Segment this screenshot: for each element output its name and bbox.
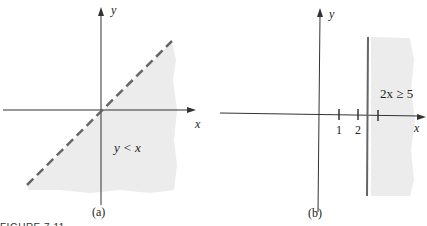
figure-caption: FIGURE 7.11 (0, 222, 65, 226)
x-arrow-a (187, 107, 196, 113)
y-axis-label-b: y (328, 7, 335, 21)
panel-a: y x y < x (a) (3, 3, 201, 219)
panel-label-a: (a) (92, 205, 105, 219)
x-axis-label-b: x (413, 121, 420, 135)
x-axis-label-a: x (194, 117, 201, 131)
x-arrow-b (417, 114, 426, 120)
y-axis-label-a: y (110, 3, 117, 17)
y-axis-b (318, 15, 320, 212)
shaded-region-a (28, 42, 177, 193)
panel-b: y x 1 2 2x ≥ 5 (b) (220, 7, 426, 220)
panel-label-b: (b) (308, 206, 322, 220)
y-arrow-b (317, 8, 323, 17)
tick-label-1: 1 (336, 123, 342, 137)
y-arrow-a (98, 7, 104, 16)
figure-canvas: y x y < x (a) y x 1 2 2x ≥ 5 (b) FIGURE … (0, 0, 427, 226)
region-label-b: 2x ≥ 5 (380, 86, 413, 101)
tick-label-2: 2 (355, 123, 361, 137)
boundary-solid-b (367, 37, 368, 196)
region-label-a: y < x (112, 140, 141, 155)
